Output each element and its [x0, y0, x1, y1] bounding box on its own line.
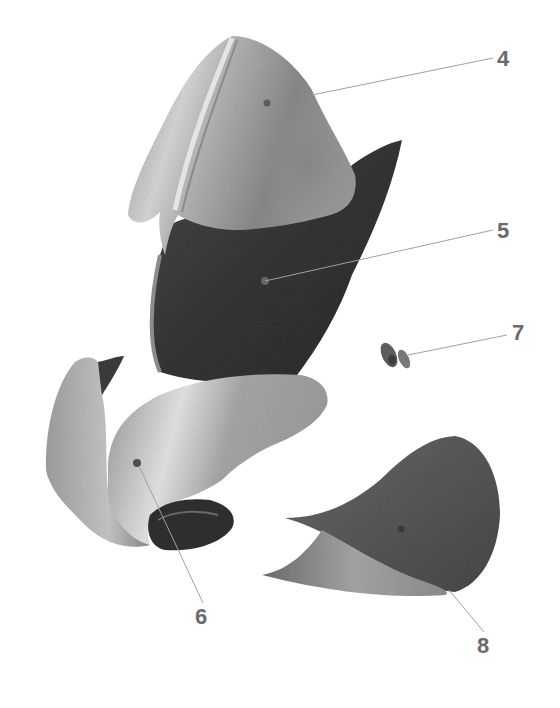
exploded-diagram [0, 0, 560, 708]
callout-label-7: 7 [512, 322, 524, 344]
callout-label-5: 5 [497, 220, 509, 242]
part-6-curl [46, 356, 328, 550]
part-4-anchor-dot [264, 100, 271, 107]
callout-label-4: 4 [497, 48, 509, 70]
part-7-pellets [377, 340, 413, 370]
part-6-anchor-dot [133, 459, 141, 467]
leader-8 [449, 590, 484, 632]
part-8-anchor-dot [398, 526, 405, 533]
leader-4 [312, 58, 493, 95]
callout-label-8: 8 [477, 635, 489, 657]
callout-label-6: 6 [195, 606, 207, 628]
part-8-horned [262, 436, 500, 596]
leader-7 [408, 335, 507, 355]
